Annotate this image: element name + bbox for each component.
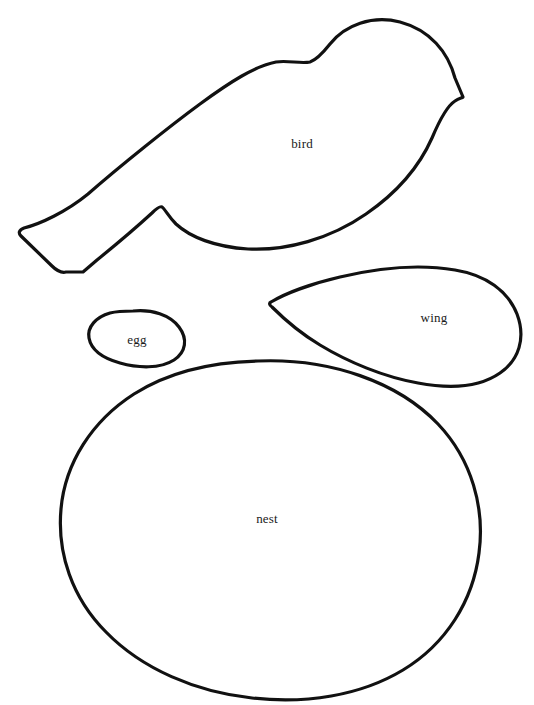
wing-piece-label: wing xyxy=(421,310,448,326)
nest-shape-outline[interactable] xyxy=(60,361,480,700)
egg-piece-label: egg xyxy=(127,332,146,348)
bird-piece-label: bird xyxy=(291,136,313,152)
pattern-page: bird wing egg nest xyxy=(0,0,534,705)
pattern-canvas xyxy=(0,0,534,705)
nest-piece-label: nest xyxy=(256,511,278,527)
